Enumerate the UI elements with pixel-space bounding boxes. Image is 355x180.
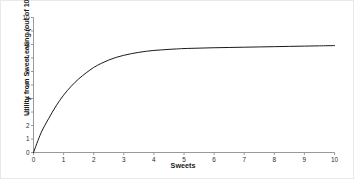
x-axis-title: Sweets: [33, 161, 333, 170]
y-tick-label: 1: [26, 135, 30, 142]
y-axis-title: Utility from Sweet eating (out of 10): [22, 0, 31, 127]
y-tick-label: 0: [26, 149, 30, 156]
chart-container: 012345678910 012345678910 Utility from S…: [0, 0, 355, 180]
chart-plot-area: 012345678910 012345678910: [0, 0, 355, 180]
utility-curve: [34, 46, 335, 153]
